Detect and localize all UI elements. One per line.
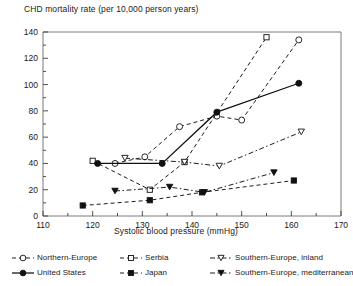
data-point [177,124,183,130]
data-point [296,37,302,43]
legend-label: United States [37,268,86,277]
legend-marker-filled-triangle-down-icon [210,267,232,279]
legend-marker-open-square-icon [120,252,142,264]
legend-label: Northern-Europe [37,253,97,262]
y-tick-label: 60 [29,132,39,142]
legend-label: Southern-Europe, mediterranean [235,268,353,277]
data-point [95,160,101,166]
y-tick-label: 120 [24,53,38,63]
data-point [80,203,85,208]
data-point [147,198,152,203]
axes: 020406080100120140110120130140150160170 [24,27,349,230]
plot-area: 020406080100120140110120130140150160170 [0,0,352,240]
legend-item[interactable]: Southern-Europe, mediterranean [210,267,353,279]
data-point [239,117,245,123]
series-southern-europe-mediterranean [112,170,277,195]
data-point [159,160,165,166]
data-point [214,109,220,115]
legend-item[interactable]: Northern-Europe [12,252,120,264]
legend-label: Serbia [145,253,168,262]
legend-item[interactable]: United States [12,267,120,279]
y-tick-label: 100 [24,80,38,90]
legend-marker-open-triangle-down-icon [210,252,232,264]
data-point [147,187,152,192]
data-point [271,170,277,176]
data-point [166,184,172,190]
data-point [142,154,148,160]
y-tick-label: 20 [29,185,39,195]
legend-item[interactable]: Southern-Europe, inland [210,252,353,264]
x-axis-title: Systolic blood pressure (mmHg) [0,226,352,236]
series-northern-europe [112,37,302,167]
legend-marker-open-circle-icon [12,252,34,264]
data-point [296,80,302,86]
data-point [298,129,304,135]
data-point [291,178,296,183]
chart-legend: Northern-EuropeSerbiaSouthern-Europe, in… [12,250,344,280]
legend-item[interactable]: Serbia [120,252,210,264]
series-serbia [90,35,269,193]
plot-frame [43,32,341,216]
legend-marker-filled-square-icon [120,267,142,279]
series-united-states [95,80,302,166]
y-tick-label: 140 [24,27,38,37]
legend-label: Southern-Europe, inland [235,253,323,262]
series-japan [80,178,296,208]
data-point [264,35,269,40]
legend-marker-filled-circle-icon [12,267,34,279]
legend-item[interactable]: Japan [120,267,210,279]
y-tick-label: 40 [29,158,39,168]
legend-label: Japan [145,268,167,277]
y-tick-label: 80 [29,106,39,116]
plot-svg: 020406080100120140110120130140150160170 [0,0,352,240]
